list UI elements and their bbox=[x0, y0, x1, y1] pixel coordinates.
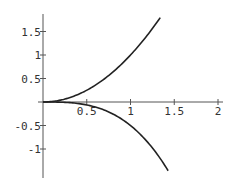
y-tick-label: -0.5 bbox=[15, 120, 42, 133]
x-tick-label: 1 bbox=[127, 105, 134, 118]
y-tick-label: 0.5 bbox=[21, 73, 41, 86]
y-ticks: 1.510.5-0.5-1 bbox=[15, 26, 47, 157]
y-tick-label: -1 bbox=[28, 143, 41, 156]
x-tick-label: 2 bbox=[215, 105, 222, 118]
plot: 0.511.52 1.510.5-0.5-1 bbox=[0, 0, 236, 185]
x-tick-label: 1.5 bbox=[164, 105, 184, 118]
axes bbox=[38, 14, 223, 178]
lower-curve bbox=[43, 102, 168, 171]
upper-curve bbox=[43, 18, 160, 102]
y-tick-label: 1.5 bbox=[21, 26, 41, 39]
y-tick-label: 1 bbox=[34, 49, 41, 62]
